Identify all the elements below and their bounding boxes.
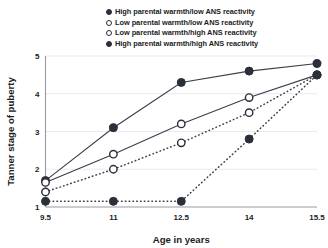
- x-tick-label: 11: [109, 213, 118, 222]
- data-point-marker: [110, 166, 117, 173]
- data-point-marker: [245, 94, 252, 101]
- data-point-marker: [109, 197, 117, 205]
- data-point-marker: [245, 135, 253, 143]
- x-tick-label: 15.5: [309, 213, 325, 222]
- y-tick-label: 5: [35, 52, 40, 61]
- data-point-marker: [42, 197, 50, 205]
- y-tick-label: 2: [35, 165, 40, 174]
- series-line: [46, 75, 318, 183]
- y-tick-label: 1: [35, 203, 40, 212]
- plot-area: 12345 9.51112.51415.5 Age in years Tanne…: [0, 0, 328, 248]
- x-tick-label: 14: [245, 213, 254, 222]
- y-axis-title: Tanner stage of puberty: [5, 77, 16, 186]
- data-point-marker: [245, 67, 253, 75]
- x-axis-title: Age in years: [153, 234, 210, 245]
- y-axis-tick-labels: 12345: [35, 52, 40, 212]
- data-point-marker: [245, 109, 252, 116]
- y-tick-label: 3: [35, 128, 40, 137]
- data-point-marker: [109, 124, 117, 132]
- data-point-marker: [177, 197, 185, 205]
- data-point-marker: [178, 139, 185, 146]
- y-tick-label: 4: [35, 90, 40, 99]
- data-point-marker: [313, 60, 321, 68]
- x-axis-tick-labels: 9.51112.51415.5: [40, 213, 325, 222]
- line-chart-svg: 12345 9.51112.51415.5 Age in years Tanne…: [0, 0, 328, 248]
- data-point-marker: [313, 71, 321, 79]
- data-point-marker: [110, 150, 117, 157]
- x-tick-label: 12.5: [173, 213, 189, 222]
- chart-figure: High parental warmth/low ANS reactivity …: [0, 0, 328, 248]
- data-point-marker: [178, 120, 185, 127]
- series-line: [46, 75, 318, 192]
- x-tick-label: 9.5: [40, 213, 52, 222]
- data-point-marker: [177, 78, 185, 86]
- data-point-marker: [42, 179, 49, 186]
- data-point-marker: [42, 188, 49, 195]
- series-markers: [42, 60, 322, 206]
